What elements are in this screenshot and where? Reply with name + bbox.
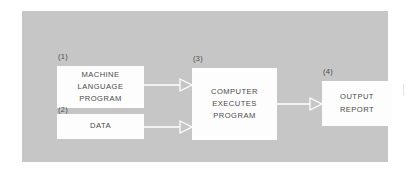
node-line: REPORT bbox=[340, 104, 374, 116]
node-line: OUTPUT bbox=[340, 91, 374, 103]
step-label-3: (3) bbox=[193, 55, 203, 62]
node-line: COMPUTER bbox=[211, 86, 258, 98]
node-line: EXECUTES bbox=[212, 98, 257, 110]
step-label-1: (1) bbox=[58, 53, 68, 60]
diagram-canvas: (1) MACHINE LANGUAGE PROGRAM (2) DATA (3… bbox=[0, 0, 412, 177]
node-computer-executes-program[interactable]: COMPUTER EXECUTES PROGRAM bbox=[192, 68, 277, 140]
step-label-2: (2) bbox=[58, 106, 68, 113]
node-line: MACHINE bbox=[81, 69, 119, 81]
arrow-machine-to-computer-icon bbox=[144, 77, 194, 93]
page-edge-mark bbox=[403, 84, 404, 95]
arrow-computer-to-output-icon bbox=[277, 96, 324, 112]
diagram-panel: (1) MACHINE LANGUAGE PROGRAM (2) DATA (3… bbox=[22, 11, 388, 162]
node-line: LANGUAGE bbox=[78, 81, 124, 93]
step-label-4: (4) bbox=[323, 68, 333, 75]
node-output-report[interactable]: OUTPUT REPORT bbox=[322, 81, 392, 126]
node-data[interactable]: DATA bbox=[57, 114, 144, 139]
node-machine-language-program[interactable]: MACHINE LANGUAGE PROGRAM bbox=[57, 66, 144, 108]
arrow-data-to-computer-icon bbox=[144, 119, 194, 135]
node-line: PROGRAM bbox=[79, 93, 121, 105]
node-line: PROGRAM bbox=[213, 110, 255, 122]
node-line: DATA bbox=[90, 120, 111, 132]
